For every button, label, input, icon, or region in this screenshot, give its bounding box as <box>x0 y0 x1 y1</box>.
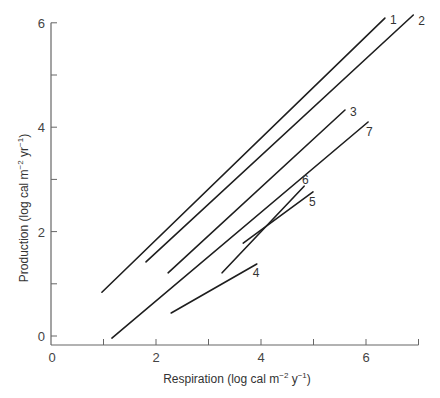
y-tick-label: 6 <box>38 16 45 31</box>
series-label-4: 4 <box>253 266 260 280</box>
series-label-7: 7 <box>366 125 373 139</box>
x-tick-label: 4 <box>257 350 264 365</box>
series-label-1: 1 <box>390 13 397 27</box>
y-tick-label: 4 <box>38 120 45 135</box>
series-line-4 <box>171 264 257 313</box>
series-line-6 <box>222 186 304 273</box>
series-line-7 <box>112 122 368 338</box>
series-label-5: 5 <box>309 195 316 209</box>
series-label-2: 2 <box>418 14 425 28</box>
x-axis-title: Respiration (log cal m−2 y−1) <box>163 371 311 386</box>
x-tick-label: 6 <box>362 350 369 365</box>
y-tick-label: 0 <box>38 329 45 344</box>
axes: 02460246 <box>38 16 419 365</box>
y-axis-title: Production (log cal m−2 yr−1) <box>16 134 31 282</box>
series-line-3 <box>168 110 345 273</box>
x-tick-label: 2 <box>152 350 159 365</box>
x-tick-label: 0 <box>48 350 55 365</box>
series-lines <box>102 15 413 338</box>
series-label-3: 3 <box>350 105 357 119</box>
y-tick-label: 2 <box>38 225 45 240</box>
chart: 02460246 1234567 Respiration (log cal m−… <box>0 0 440 398</box>
series-label-6: 6 <box>302 173 309 187</box>
series-line-2 <box>146 15 413 262</box>
